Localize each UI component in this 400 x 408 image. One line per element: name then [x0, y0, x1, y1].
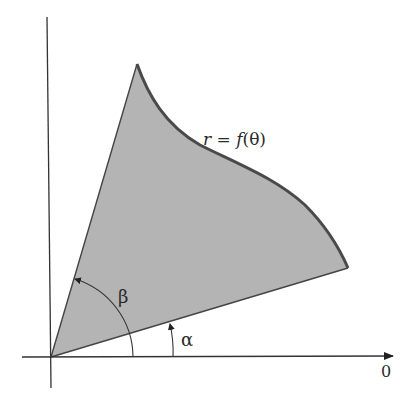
angle-alpha-label: α — [181, 329, 193, 350]
polar-region-diagram: β α 0 r = f(θ) — [0, 0, 400, 408]
curve-label: r = f(θ) — [203, 129, 266, 149]
curve-label-eq: = — [211, 129, 236, 149]
polar-axis — [22, 356, 393, 357]
angle-beta-label: β — [118, 286, 128, 307]
axis-zero-label: 0 — [381, 362, 391, 381]
vertical-axis — [47, 17, 51, 388]
curve-label-arg: (θ) — [243, 129, 267, 149]
angle-alpha-arc — [170, 324, 173, 357]
